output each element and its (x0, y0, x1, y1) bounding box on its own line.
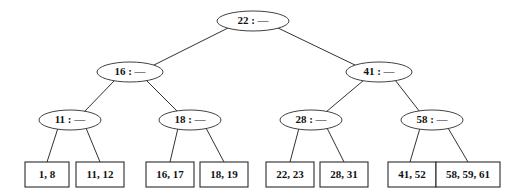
tree-canvas: 22 : —16 : —41 : —11 : —18 : —28 : —58 :… (0, 0, 507, 196)
tree-node-58[interactable]: 58 : — (401, 110, 463, 130)
edges-group (47, 28, 468, 162)
tree-edge (278, 28, 357, 66)
node-label: 41 : — (363, 65, 395, 77)
leaf-node[interactable]: 11, 12 (76, 162, 124, 187)
node-label: 11 : — (55, 113, 87, 125)
tree-edge (152, 28, 228, 66)
leaf-label: 22, 23 (276, 168, 304, 180)
leaf-node[interactable]: 41, 52 (388, 162, 436, 187)
leaf-node[interactable]: 18, 19 (200, 162, 248, 187)
tree-edge (206, 128, 224, 162)
tree-node-28[interactable]: 28 : — (280, 110, 342, 130)
tree-edge (146, 80, 178, 112)
tree-edge (170, 128, 178, 162)
node-label: 28 : — (295, 113, 327, 125)
leaf-node[interactable]: 1, 8 (25, 162, 69, 187)
leaf-node[interactable]: 28, 31 (320, 162, 368, 187)
leaf-label: 41, 52 (398, 168, 426, 180)
leaf-label: 58, 59, 61 (446, 168, 490, 180)
tree-node-18[interactable]: 18 : — (159, 110, 221, 130)
tree-edge (47, 128, 58, 162)
tree-edge (410, 128, 420, 162)
internal-nodes-group: 22 : —16 : —41 : —11 : —18 : —28 : —58 :… (39, 11, 463, 130)
leaf-label: 16, 17 (156, 168, 184, 180)
b-tree-diagram: 22 : —16 : —41 : —11 : —18 : —28 : —58 :… (0, 0, 507, 196)
tree-edge (327, 128, 344, 162)
leaf-label: 18, 19 (210, 168, 238, 180)
tree-edge (86, 128, 100, 162)
node-label: 18 : — (174, 113, 206, 125)
leaf-node[interactable]: 16, 17 (146, 162, 194, 187)
leaf-node[interactable]: 22, 23 (266, 162, 314, 187)
leaf-node[interactable]: 58, 59, 61 (436, 162, 500, 187)
tree-node-22[interactable]: 22 : — (217, 11, 289, 31)
tree-node-16[interactable]: 16 : — (97, 62, 163, 82)
node-label: 22 : — (237, 14, 269, 26)
leaf-label: 28, 31 (330, 168, 358, 180)
leaf-nodes-group: 1, 811, 1216, 1718, 1922, 2328, 3141, 52… (25, 162, 500, 187)
node-label: 58 : — (416, 113, 448, 125)
tree-edge (395, 80, 420, 112)
tree-edge (448, 128, 468, 162)
tree-edge (326, 80, 364, 112)
tree-edge (84, 80, 115, 112)
tree-node-41[interactable]: 41 : — (346, 62, 412, 82)
leaf-label: 11, 12 (87, 168, 114, 180)
tree-edge (290, 128, 299, 162)
tree-node-11[interactable]: 11 : — (39, 110, 101, 130)
node-label: 16 : — (114, 65, 146, 77)
leaf-label: 1, 8 (39, 168, 56, 180)
